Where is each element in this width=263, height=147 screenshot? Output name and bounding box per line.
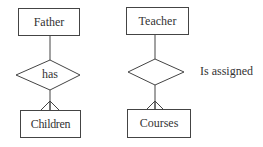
is-assigned-relationship-diamond xyxy=(128,59,184,85)
courses-entity-label: Courses xyxy=(127,116,191,130)
has-relationship-label: has xyxy=(30,67,70,81)
children-crows-foot-icon xyxy=(41,101,59,110)
is-assigned-side-label: Is assigned xyxy=(200,64,253,78)
teacher-entity-label: Teacher xyxy=(126,14,189,28)
courses-crows-foot-icon xyxy=(147,101,163,109)
father-entity-label: Father xyxy=(18,15,80,29)
children-entity-label: Children xyxy=(20,117,81,131)
